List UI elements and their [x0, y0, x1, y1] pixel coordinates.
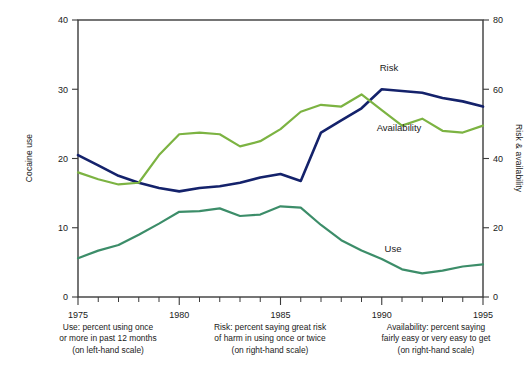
- x-axis-ticks: [78, 297, 483, 305]
- series-line-availability: [78, 94, 483, 184]
- y-right-tick-label: 20: [493, 223, 503, 233]
- series-label-risk: Risk: [380, 62, 399, 73]
- caption-use: Use: percent using once or more in past …: [28, 322, 188, 356]
- plot-frame: [78, 20, 483, 297]
- series-lines: [78, 89, 483, 273]
- cocaine-trends-chart: 010203040 020406080 19751980198519901995…: [0, 0, 530, 379]
- y-axis-right-title: Risk & availability: [514, 124, 524, 193]
- y-left-tick-label: 30: [58, 85, 68, 95]
- series-label-use: Use: [385, 243, 402, 254]
- x-tick-label: 1995: [473, 310, 493, 320]
- caption-risk: Risk: percent saying great risk of harm …: [186, 322, 354, 356]
- y-left-tick-label: 20: [58, 154, 68, 164]
- x-tick-label: 1980: [169, 310, 189, 320]
- series-label-availability: Availability: [377, 122, 422, 133]
- right-axis-tick-labels: 020406080: [493, 15, 503, 302]
- y-left-tick-label: 0: [63, 292, 68, 302]
- left-axis-ticks: [72, 20, 78, 297]
- x-tick-label: 1990: [372, 310, 392, 320]
- x-tick-label: 1975: [68, 310, 88, 320]
- series-line-risk: [78, 89, 483, 191]
- y-right-tick-label: 60: [493, 85, 503, 95]
- y-right-tick-label: 0: [493, 292, 498, 302]
- x-axis-tick-labels: 19751980198519901995: [68, 310, 493, 320]
- y-axis-left-title: Cocaine use: [24, 134, 34, 183]
- left-axis-tick-labels: 010203040: [58, 15, 68, 302]
- y-right-tick-label: 80: [493, 15, 503, 25]
- caption-availability: Availability: percent saying fairly easy…: [350, 322, 522, 356]
- right-axis-ticks: [483, 20, 489, 297]
- y-right-tick-label: 40: [493, 154, 503, 164]
- x-tick-label: 1985: [270, 310, 290, 320]
- y-left-tick-label: 10: [58, 223, 68, 233]
- series-line-use: [78, 206, 483, 273]
- y-left-tick-label: 40: [58, 15, 68, 25]
